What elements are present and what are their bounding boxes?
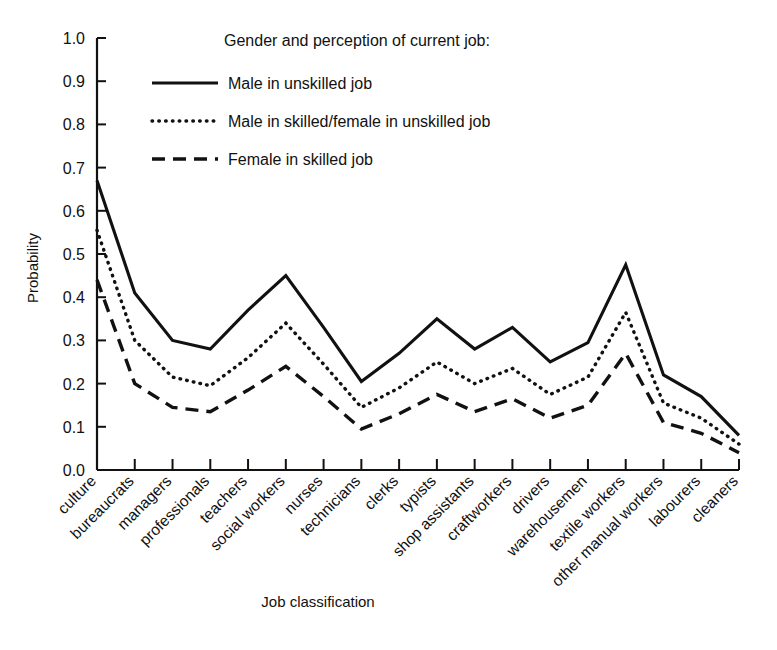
legend-label-female-skilled: Female in skilled job — [228, 151, 373, 168]
y-tick-label: 0.4 — [63, 289, 85, 306]
y-tick-label: 0.2 — [63, 376, 85, 393]
probability-by-job-classification-chart: 0.00.10.20.30.40.50.60.70.80.91.0 cultur… — [0, 0, 777, 650]
legend-label-male-unskilled: Male in unskilled job — [228, 75, 372, 92]
y-tick-label: 0.9 — [63, 73, 85, 90]
y-tick-label: 0.8 — [63, 116, 85, 133]
legend-label-male-skilled-female-unskilled: Male in skilled/female in unskilled job — [228, 113, 490, 130]
y-tick-label: 0.7 — [63, 160, 85, 177]
y-tick-label: 0.3 — [63, 332, 85, 349]
legend-title: Gender and perception of current job: — [224, 32, 490, 49]
y-tick-label: 1.0 — [63, 30, 85, 47]
x-axis-title: Job classification — [261, 593, 374, 610]
y-tick-label: 0.1 — [63, 419, 85, 436]
y-tick-label: 0.5 — [63, 246, 85, 263]
y-tick-label: 0.6 — [63, 203, 85, 220]
y-axis-title: Probability — [24, 232, 41, 303]
chart-background — [0, 0, 777, 650]
